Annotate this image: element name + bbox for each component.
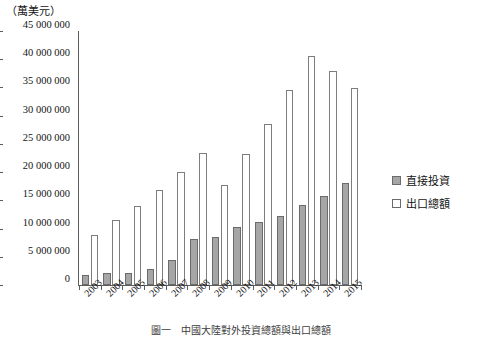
bar-export-2015 — [351, 88, 359, 285]
bar-group — [144, 31, 166, 285]
y-axis-tick-mark — [0, 116, 3, 117]
y-axis-unit-label: （萬美元） — [6, 2, 61, 18]
bar-fdi-2012 — [277, 216, 285, 285]
bar-export-2007 — [177, 172, 185, 285]
y-axis-tick-mark — [0, 257, 3, 258]
legend-swatch-icon-exp — [392, 199, 401, 208]
legend-label-fdi: 直接投資 — [406, 172, 450, 188]
bar-group — [166, 31, 188, 285]
bar-group — [274, 31, 296, 285]
y-axis-tick-mark — [0, 172, 3, 173]
bar-fdi-2008 — [190, 239, 198, 285]
y-axis-tick-mark — [0, 229, 3, 230]
bar-group — [318, 31, 340, 285]
bar-group — [122, 31, 144, 285]
legend-label-exp: 出口總額 — [406, 195, 450, 211]
bar-group — [339, 31, 361, 285]
bar-export-2013 — [308, 56, 316, 285]
legend-item-fdi: 直接投資 — [392, 172, 450, 188]
bar-series-container — [79, 31, 361, 285]
bar-fdi-2007 — [168, 260, 176, 285]
y-axis-tick-mark — [0, 31, 3, 32]
bar-export-2009 — [221, 185, 229, 285]
bar-group — [79, 31, 101, 285]
y-axis-tick-mark — [0, 200, 3, 201]
bar-export-2008 — [199, 153, 207, 285]
y-axis-tick-mark — [0, 144, 3, 145]
bar-fdi-2006 — [147, 269, 155, 285]
bar-fdi-2010 — [233, 227, 241, 285]
bar-group — [253, 31, 275, 285]
bar-fdi-2011 — [255, 222, 263, 285]
bar-fdi-2004 — [103, 273, 111, 285]
chart-legend: 直接投資出口總額 — [392, 172, 450, 218]
bar-fdi-2013 — [299, 205, 307, 285]
bar-export-2010 — [242, 154, 250, 286]
y-axis-tick-mark — [0, 87, 3, 88]
bar-export-2011 — [264, 124, 272, 285]
legend-item-exp: 出口總額 — [392, 195, 450, 211]
bar-fdi-2015 — [342, 183, 350, 285]
bar-export-2006 — [156, 190, 164, 285]
bar-fdi-2009 — [212, 237, 220, 285]
y-axis-tick-mark — [0, 285, 3, 286]
bar-export-2004 — [112, 220, 120, 285]
x-axis-tick-mark — [79, 285, 80, 290]
figure-caption: 圖一 中國大陸對外投資總額與出口總額 — [0, 322, 482, 337]
y-axis-tick-mark — [0, 59, 3, 60]
bar-fdi-2014 — [320, 196, 328, 285]
bar-group — [209, 31, 231, 285]
bar-group — [101, 31, 123, 285]
bar-group — [187, 31, 209, 285]
bar-export-2012 — [286, 90, 294, 285]
legend-swatch-icon-fdi — [392, 176, 401, 185]
bar-export-2014 — [329, 71, 337, 285]
plot-area: 45 000 00040 000 00035 000 00030 000 000… — [78, 31, 361, 286]
bar-export-2005 — [134, 206, 142, 285]
bar-group — [231, 31, 253, 285]
bar-group — [296, 31, 318, 285]
